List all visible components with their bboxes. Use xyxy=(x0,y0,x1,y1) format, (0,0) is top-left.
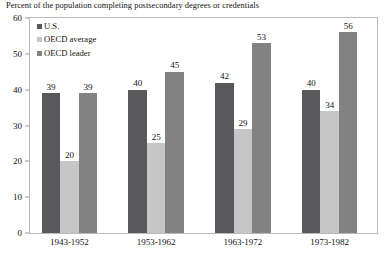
bar-value-label: 29 xyxy=(238,119,247,128)
bar-value-label: 25 xyxy=(152,133,161,142)
chart-title: Percent of the population completing pos… xyxy=(6,1,259,10)
y-tick-label: 20 xyxy=(13,157,22,166)
bar[interactable]: 39 xyxy=(42,93,61,233)
bar[interactable]: 39 xyxy=(79,93,98,233)
legend-swatch-icon xyxy=(37,37,42,42)
bar-value-label: 42 xyxy=(220,72,229,81)
bar[interactable]: 25 xyxy=(147,143,166,233)
bar-value-label: 39 xyxy=(46,83,55,92)
legend-label: OECD average xyxy=(44,35,96,44)
bar-value-label: 40 xyxy=(133,79,142,88)
x-axis: 1943-19521953-19621963-19721973-1982 xyxy=(30,238,377,254)
bar[interactable]: 45 xyxy=(165,72,184,233)
bar[interactable]: 56 xyxy=(339,32,358,233)
bar-value-label: 39 xyxy=(83,83,92,92)
bar[interactable]: 53 xyxy=(252,43,271,233)
bar[interactable]: 20 xyxy=(60,161,79,233)
y-axis: 0102030405060 xyxy=(0,0,29,272)
x-tick-label: 1943-1952 xyxy=(50,238,89,247)
y-tick-label: 0 xyxy=(18,229,23,238)
bar-value-label: 20 xyxy=(65,151,74,160)
chart-container: Percent of the population completing pos… xyxy=(0,0,390,272)
legend-label: OECD leader xyxy=(44,49,91,58)
bar-value-label: 34 xyxy=(325,101,334,110)
y-tick-label: 40 xyxy=(13,85,22,94)
y-tick-label: 60 xyxy=(13,14,22,23)
x-tick-label: 1963-1972 xyxy=(223,238,262,247)
legend-item[interactable]: U.S. xyxy=(37,21,96,31)
legend-label: U.S. xyxy=(44,22,59,31)
x-tick-label: 1953-1962 xyxy=(137,238,176,247)
y-tick-label: 50 xyxy=(13,49,22,58)
chart-legend: U.S.OECD averageOECD leader xyxy=(37,21,96,58)
bar[interactable]: 34 xyxy=(320,111,339,233)
legend-swatch-icon xyxy=(37,24,42,29)
bar-value-label: 45 xyxy=(170,61,179,70)
y-tick-label: 10 xyxy=(13,193,22,202)
bar[interactable]: 40 xyxy=(128,90,147,233)
bar-group: 403456 xyxy=(302,18,358,233)
bar[interactable]: 42 xyxy=(215,83,234,234)
bar[interactable]: 40 xyxy=(302,90,321,233)
bar-value-label: 40 xyxy=(307,79,316,88)
x-tick-label: 1973-1982 xyxy=(310,238,349,247)
bar-group: 402545 xyxy=(128,18,184,233)
bar-value-label: 53 xyxy=(257,33,266,42)
legend-item[interactable]: OECD leader xyxy=(37,48,96,58)
bar-value-label: 56 xyxy=(344,22,353,31)
legend-item[interactable]: OECD average xyxy=(37,35,96,45)
y-tick-label: 30 xyxy=(13,121,22,130)
legend-swatch-icon xyxy=(37,51,42,56)
bar[interactable]: 29 xyxy=(234,129,253,233)
bar-group: 422953 xyxy=(215,18,271,233)
